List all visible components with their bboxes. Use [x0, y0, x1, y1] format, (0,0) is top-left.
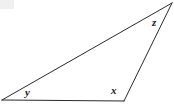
triangle-diagram-figure: y x z — [0, 0, 174, 106]
angle-label-y: y — [25, 87, 30, 98]
angle-label-z: z — [152, 17, 156, 28]
triangle-edge-right-side — [124, 3, 172, 101]
triangle-edge-base — [2, 100, 124, 101]
angle-label-x: x — [111, 85, 117, 96]
